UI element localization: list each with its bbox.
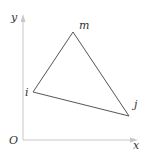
y-axis-arrow-icon: [21, 14, 26, 22]
vertex-m-label: m: [79, 19, 89, 32]
triangle-diagram: y x O i j m: [0, 0, 150, 156]
vertex-i-label: i: [25, 86, 29, 99]
y-axis-label: y: [10, 11, 18, 24]
vertex-j-label: j: [131, 98, 138, 111]
triangle-ijm: [33, 32, 129, 116]
x-axis-label: x: [133, 139, 140, 152]
origin-label: O: [9, 134, 18, 147]
